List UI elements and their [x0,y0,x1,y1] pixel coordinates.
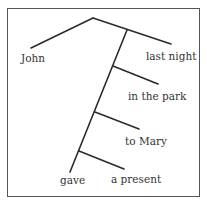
label-last-night: last night [146,51,196,62]
diagram-lines [0,0,207,207]
branch-to-mary [95,112,139,129]
subject-line [31,18,93,48]
branch-a-present [79,151,124,169]
label-a-present: a present [111,174,161,185]
predicate-top-line [93,18,171,44]
label-to-mary: to Mary [125,136,167,147]
label-john: John [21,53,45,64]
branch-in-the-park [113,66,158,84]
sentence-diagram: John last night in the park to Mary gave… [0,0,207,207]
label-in-the-park: in the park [128,91,186,102]
label-gave: gave [60,175,85,186]
